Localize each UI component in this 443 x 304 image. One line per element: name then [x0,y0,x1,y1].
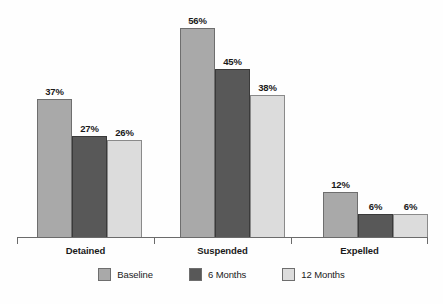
legend-swatch-icon [98,268,111,281]
bar-group-expelled: 12% 6% 6% [323,10,429,237]
bar-detained-12months[interactable]: 26% [107,10,142,237]
legend-label: 6 Months [208,269,246,280]
axis-tick-end [427,238,428,244]
bar-value-label: 12% [331,179,349,190]
legend-swatch-icon [282,268,295,281]
bar-rect [358,214,393,237]
bar-rect [393,214,428,237]
bar-suspended-baseline[interactable]: 56% [180,10,215,237]
bar-rect [37,99,72,237]
category-label-detained: Detained [17,245,154,256]
grouped-bar-chart: 37% 27% 26% 56% 45% 38% [0,0,443,304]
bar-value-label: 38% [258,82,276,93]
chart-legend: Baseline 6 Months 12 Months [0,268,443,281]
legend-item-12-months[interactable]: 12 Months [282,268,344,281]
bar-group-detained: 37% 27% 26% [37,10,143,237]
axis-tick-start [17,238,18,244]
bar-detained-baseline[interactable]: 37% [37,10,72,237]
bar-value-label: 26% [115,127,133,138]
bar-value-label: 27% [80,123,98,134]
bar-value-label: 6% [404,201,417,212]
bar-rect [323,192,358,237]
bar-rect [107,140,142,237]
bar-rect [215,69,250,237]
bar-detained-6months[interactable]: 27% [72,10,107,237]
axis-tick-separator-2 [291,238,292,244]
bar-rect [250,95,285,237]
bar-group-suspended: 56% 45% 38% [180,10,286,237]
bar-expelled-6months[interactable]: 6% [358,10,393,237]
bar-rect [72,136,107,237]
bar-suspended-6months[interactable]: 45% [215,10,250,237]
bar-value-label: 56% [188,15,206,26]
bar-expelled-12months[interactable]: 6% [393,10,428,237]
legend-item-6-months[interactable]: 6 Months [189,268,246,281]
bar-value-label: 45% [223,56,241,67]
x-axis-line [17,237,428,238]
bar-rect [180,28,215,237]
category-label-suspended: Suspended [154,245,291,256]
legend-item-baseline[interactable]: Baseline [98,268,153,281]
legend-label: 12 Months [301,269,344,280]
axis-tick-separator-1 [154,238,155,244]
bar-value-label: 37% [45,86,63,97]
legend-label: Baseline [117,269,153,280]
legend-swatch-icon [189,268,202,281]
bar-value-label: 6% [369,201,382,212]
bar-suspended-12months[interactable]: 38% [250,10,285,237]
plot-area: 37% 27% 26% 56% 45% 38% [17,10,428,237]
category-label-expelled: Expelled [291,245,428,256]
bar-expelled-baseline[interactable]: 12% [323,10,358,237]
